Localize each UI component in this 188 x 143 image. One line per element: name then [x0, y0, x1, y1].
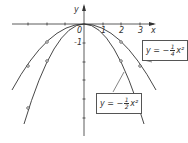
label-half-den: 2	[125, 104, 129, 110]
origin-label: 0	[77, 26, 82, 35]
label-half-prefix: y = −	[100, 99, 123, 108]
x-tick-label-3: 3	[138, 26, 143, 35]
label-quarter-suffix: x²	[176, 46, 184, 55]
y-tick-label-neg1: -1	[74, 38, 82, 47]
leader-half	[113, 72, 124, 92]
label-half-suffix: x²	[130, 99, 138, 108]
parabola-diagram: y x 0 1 2 3 -1	[0, 0, 188, 143]
label-quarter-box: y = − 1 4 x²	[142, 40, 188, 61]
x-tick-label-1: 1	[101, 26, 106, 35]
x-axis-label: x	[150, 26, 156, 35]
label-quarter-prefix: y = −	[146, 46, 169, 55]
y-axis-arrow-icon	[82, 4, 86, 11]
y-axis-label: y	[73, 5, 79, 14]
label-quarter-den: 4	[171, 51, 175, 57]
label-half-fraction: 1 2	[124, 97, 129, 110]
label-quarter-fraction: 1 4	[170, 44, 175, 57]
label-half-box: y = − 1 2 x²	[96, 93, 142, 114]
x-tick-label-2: 2	[119, 26, 124, 35]
